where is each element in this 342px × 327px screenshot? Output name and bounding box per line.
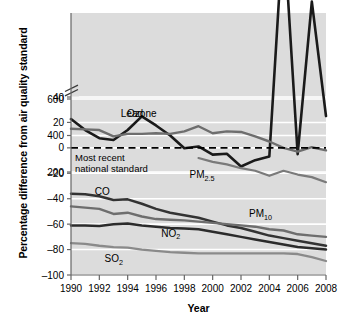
y-tick-label: –80 <box>47 244 64 255</box>
plot-background <box>71 13 326 275</box>
x-tick-label: 2002 <box>230 283 253 294</box>
x-tick-label: 2004 <box>258 283 281 294</box>
y-axis-title: Percentage difference from air quality s… <box>17 8 29 278</box>
series-label-co: CO <box>95 186 110 197</box>
y-tick-label: 400 <box>47 130 64 141</box>
y-tick-labels-group: 60040020040200–20–40–60–80–100 <box>42 92 65 281</box>
x-tick-label: 1998 <box>173 283 196 294</box>
reference-annotation-line: Most recent <box>75 152 125 163</box>
y-tick-label: 0 <box>58 142 64 153</box>
reference-annotation-line: national standard <box>75 163 148 174</box>
y-tick-label: –20 <box>47 168 64 179</box>
x-tick-label: 2000 <box>202 283 225 294</box>
x-tick-label: 2006 <box>287 283 310 294</box>
x-axis-title: Year <box>71 302 326 314</box>
air-quality-trends-chart: Percentage difference from air quality s… <box>0 0 342 327</box>
y-tick-label: 40 <box>53 92 65 103</box>
y-tick-label: 20 <box>53 117 65 128</box>
x-tick-label: 1992 <box>88 283 111 294</box>
chart-svg: 60040020040200–20–40–60–80–100 199019921… <box>0 0 342 327</box>
series-label-ozone: Ozone <box>127 108 157 119</box>
y-tick-label: –60 <box>47 219 64 230</box>
y-axis-break-icon <box>65 85 79 96</box>
y-tick-label: –100 <box>42 270 65 281</box>
x-tick-label: 1994 <box>117 283 140 294</box>
x-tick-label: 1990 <box>60 283 83 294</box>
y-tick-label: –40 <box>47 193 64 204</box>
x-tick-label: 2008 <box>315 283 338 294</box>
x-tick-label: 1996 <box>145 283 168 294</box>
x-tick-labels-group: 1990199219941996199820002002200420062008 <box>60 283 338 294</box>
